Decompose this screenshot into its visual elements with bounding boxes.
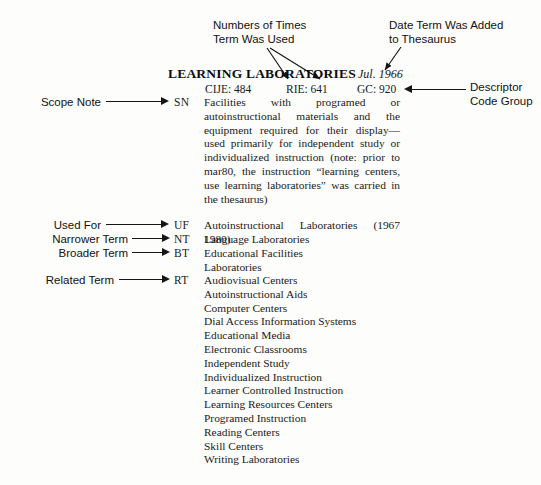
entry-date-added: Jul. 1966 bbox=[358, 67, 403, 82]
side-label-related-term: Related Term bbox=[0, 274, 114, 287]
list-item: Programed Instruction bbox=[204, 412, 356, 426]
side-label-broader-term: Broader Term bbox=[0, 247, 128, 260]
list-item: Independent Study bbox=[204, 357, 356, 371]
broader-term-0: Educational Facilities bbox=[204, 247, 414, 261]
scope-note-text: Facilities with programed or autoinstruc… bbox=[204, 96, 400, 206]
list-item: Learner Controlled Instruction bbox=[204, 384, 356, 398]
stat-rie: RIE: 641 bbox=[286, 83, 328, 95]
list-item: Educational Media bbox=[204, 329, 356, 343]
list-item: Electronic Classrooms bbox=[204, 343, 356, 357]
list-item: Learning Resources Centers bbox=[204, 398, 356, 412]
side-label-narrower-term: Narrower Term bbox=[0, 233, 128, 246]
list-item: Autoinstructional Aids bbox=[204, 288, 356, 302]
side-label-scope-note: Scope Note bbox=[0, 96, 101, 109]
arrow-narrower-term bbox=[132, 234, 170, 243]
stat-gc: GC: 920 bbox=[357, 83, 396, 95]
code-sn: SN bbox=[174, 96, 189, 110]
broader-term-1: Laboratories bbox=[204, 261, 414, 275]
arrow-scope-note bbox=[106, 97, 169, 106]
code-nt: NT bbox=[174, 233, 190, 247]
list-item: Reading Centers bbox=[204, 426, 356, 440]
thesaurus-entry-diagram: Numbers of Times Term Was Used Date Term… bbox=[0, 0, 541, 485]
code-rt: RT bbox=[174, 274, 189, 288]
list-item: Audiovisual Centers bbox=[204, 274, 356, 288]
code-uf: UF bbox=[174, 219, 189, 233]
arrow-broader-term bbox=[132, 248, 170, 257]
callout-usage-counts: Numbers of Times Term Was Used bbox=[213, 18, 306, 46]
callout-descriptor-code-group: Descriptor Code Group bbox=[470, 80, 533, 108]
entry-title: LEARNING LABORATORIES bbox=[168, 66, 356, 82]
callout-date-added: Date Term Was Added to Thesaurus bbox=[389, 18, 503, 46]
arrow-to-gc-code bbox=[404, 85, 466, 94]
list-item: Writing Laboratories bbox=[204, 453, 356, 467]
list-item: Individualized Instruction bbox=[204, 371, 356, 385]
code-bt: BT bbox=[174, 247, 189, 261]
arrow-related-term bbox=[119, 275, 170, 284]
list-item: Dial Access Information Systems bbox=[204, 315, 356, 329]
list-item: Skill Centers bbox=[204, 440, 356, 454]
side-label-used-for: Used For bbox=[0, 219, 101, 232]
narrower-term-0: Language Laboratories bbox=[204, 233, 414, 247]
related-terms-list: Audiovisual Centers Autoinstructional Ai… bbox=[204, 274, 356, 467]
stat-cije: CIJE: 484 bbox=[205, 83, 251, 95]
list-item: Computer Centers bbox=[204, 302, 356, 316]
arrow-used-for bbox=[106, 220, 169, 229]
